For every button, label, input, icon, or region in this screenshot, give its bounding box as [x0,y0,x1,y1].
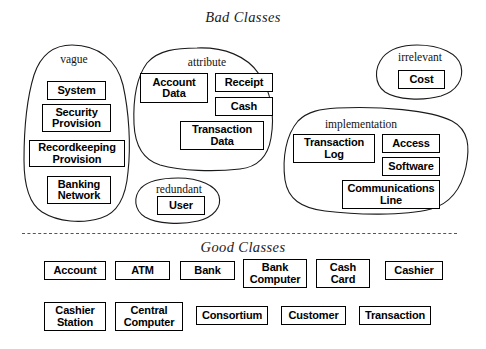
class-box-recordkeeping-provision[interactable]: Recordkeeping Provision [29,140,125,167]
class-box-cashier-station[interactable]: Cashier Station [44,302,106,331]
class-box-cash-card[interactable]: Cash Card [316,259,370,288]
class-box-software[interactable]: Software [382,157,440,176]
class-box-transaction[interactable]: Transaction [359,306,431,325]
class-box-cashier[interactable]: Cashier [385,261,443,280]
class-box-bank-computer[interactable]: Bank Computer [243,259,307,288]
group-label-irrelevant: irrelevant [385,51,455,63]
good-classes-title: Good Classes [0,239,486,256]
class-box-consortium[interactable]: Consortium [196,306,268,325]
class-box-communications-line[interactable]: Communications Line [342,180,440,209]
class-box-system[interactable]: System [47,81,106,100]
class-box-transaction-log[interactable]: Transaction Log [293,134,375,163]
class-box-account[interactable]: Account [44,261,106,280]
class-box-banking-network[interactable]: Banking Network [47,176,111,204]
class-box-atm[interactable]: ATM [115,261,170,280]
class-box-access[interactable]: Access [382,134,440,153]
class-box-account-data[interactable]: Account Data [140,73,208,103]
class-box-central-computer[interactable]: Central Computer [115,302,183,331]
group-label-attribute: attribute [172,56,242,68]
class-box-receipt[interactable]: Receipt [215,73,273,92]
class-box-customer[interactable]: Customer [281,306,346,325]
diagram-canvas: Bad Classes vague attribute redundant ir… [0,0,486,349]
class-box-cash[interactable]: Cash [215,97,273,116]
class-box-bank[interactable]: Bank [180,261,235,280]
class-box-transaction-data[interactable]: Transaction Data [180,121,264,150]
group-label-redundant: redundant [140,183,218,195]
class-box-cost[interactable]: Cost [398,70,445,89]
group-label-implementation: implementation [306,118,416,130]
group-label-vague: vague [40,53,108,65]
class-box-security-provision[interactable]: Security Provision [42,104,111,132]
class-box-user[interactable]: User [157,196,205,215]
